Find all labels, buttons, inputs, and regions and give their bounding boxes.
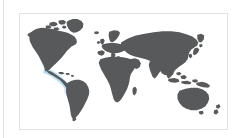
greenland (67, 19, 84, 33)
world-map (20, 14, 227, 129)
iceland (94, 31, 99, 34)
new-guinea (196, 82, 210, 88)
kamchatka (197, 34, 204, 43)
india (149, 61, 163, 79)
screenshot-root (0, 0, 236, 138)
land-layer (27, 19, 220, 121)
korean-peninsula (189, 54, 192, 58)
south-america (66, 80, 89, 119)
tasmania (199, 111, 204, 115)
caribbean-islands (59, 72, 74, 77)
new-zealand (214, 104, 221, 115)
southeast-asia (166, 67, 175, 79)
australia (177, 88, 209, 111)
page-left-rule (3, 0, 4, 138)
british-isles (97, 39, 105, 45)
map-figure-frame (19, 13, 228, 130)
scandinavia (109, 30, 120, 42)
africa (99, 57, 136, 103)
iberian-peninsula (97, 50, 104, 55)
madagascar (132, 87, 136, 96)
